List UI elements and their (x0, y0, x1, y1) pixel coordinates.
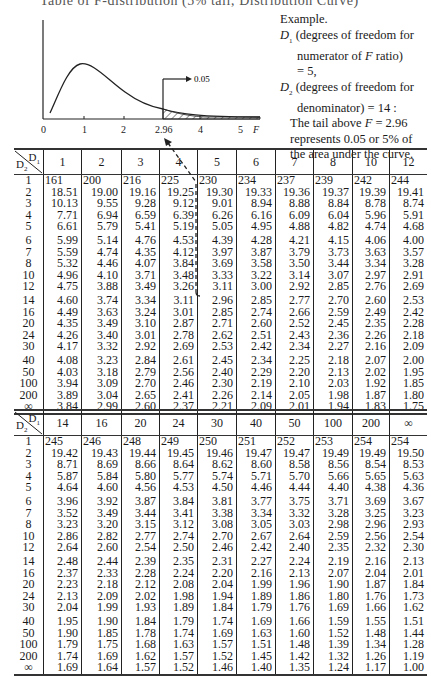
f-value-cell: 4.53 (160, 482, 198, 494)
f-value-cell: 2.92 (276, 281, 314, 293)
f-value-cell: 1.52 (160, 662, 198, 675)
f-value-cell: 4.56 (122, 482, 160, 494)
f-value-cell: 2.32 (353, 542, 390, 554)
corner-label: D1D2 (14, 410, 44, 436)
f-value-cell: 4.17 (44, 341, 82, 353)
f-value-cell: 1.69 (44, 662, 82, 675)
table-row: 124.753.883.493.263.113.002.922.852.762.… (14, 281, 427, 293)
table-row: 302.041.991.931.891.841.791.761.691.661.… (14, 602, 427, 614)
f-value-cell: 1.66 (353, 602, 390, 614)
f-value-cell: 2.53 (198, 341, 237, 353)
f-value-cell: 1.64 (82, 662, 122, 675)
f-value-cell: 1.79 (237, 602, 276, 614)
d2-value: ∞ (14, 662, 44, 675)
corner-label: D1D2 (14, 149, 44, 175)
f-value-cell: 3.32 (82, 341, 122, 353)
f-value-cell: 1.84 (198, 602, 237, 614)
f-value-cell: 1.46 (198, 662, 237, 675)
column-header: 40 (237, 410, 276, 436)
column-header: 16 (82, 410, 122, 436)
svg-text:5: 5 (238, 124, 243, 135)
example-d1: D1 (degrees of freedom for (280, 28, 430, 49)
svg-text:4: 4 (198, 124, 203, 135)
f-value-cell: 5.05 (198, 221, 237, 233)
f-value-cell: 3.26 (160, 281, 198, 293)
column-header: 3 (122, 149, 160, 175)
f-table-part-2: D1D214162024304050100200∞124524624824925… (14, 409, 427, 676)
column-header: 50 (276, 410, 314, 436)
f-value-cell: 4.82 (314, 221, 353, 233)
f-value-cell: 2.30 (390, 542, 428, 554)
example-title: Example. (280, 12, 430, 28)
f-value-cell: 3.11 (198, 281, 237, 293)
example-d2: D2 (degrees of freedom for (280, 80, 430, 101)
f-value-cell: 1.24 (314, 662, 353, 675)
f-value-cell: 4.40 (314, 482, 353, 494)
f-value-cell: 1.69 (314, 602, 353, 614)
column-header: 200 (353, 410, 390, 436)
f-value-cell: 1.40 (237, 662, 276, 675)
f-value-cell: 2.42 (237, 542, 276, 554)
d2-value: 30 (14, 602, 44, 614)
svg-text:1: 1 (82, 124, 87, 135)
tail-label: 0.05 (194, 74, 210, 84)
f-value-cell: 2.54 (122, 542, 160, 554)
column-header: 12 (390, 149, 428, 175)
f-value-cell: 5.79 (82, 221, 122, 233)
f-value-cell: 1.00 (390, 662, 428, 675)
f-value-cell: 2.64 (44, 542, 82, 554)
f-value-cell: 2.60 (82, 542, 122, 554)
density-curve (50, 64, 260, 117)
f-value-cell: 4.75 (44, 281, 82, 293)
svg-text:F: F (252, 124, 260, 135)
f-value-cell: 4.68 (390, 221, 428, 233)
d2-value: 5 (14, 482, 44, 494)
f-value-cell: 4.60 (82, 482, 122, 494)
f-value-cell: 4.95 (237, 221, 276, 233)
f-value-cell: 4.44 (276, 482, 314, 494)
svg-text:2.96: 2.96 (155, 124, 173, 135)
f-value-cell: 2.76 (353, 281, 390, 293)
d2-value: 30 (14, 341, 44, 353)
table-row: 54.644.604.564.534.504.464.444.404.384.3… (14, 482, 427, 494)
column-header: 6 (237, 149, 276, 175)
f-value-cell: 2.40 (276, 542, 314, 554)
d2-value: 5 (14, 221, 44, 233)
column-header: 1 (44, 149, 82, 175)
f-value-cell: 1.35 (276, 662, 314, 675)
f-value-cell: 5.19 (160, 221, 198, 233)
f-value-cell: 4.50 (198, 482, 237, 494)
f-table-part-1: D1D2123456781012116120021622523023423723… (14, 148, 427, 415)
f-value-cell: 2.16 (353, 341, 390, 353)
f-value-cell: 5.41 (122, 221, 160, 233)
f-value-cell: 2.27 (314, 341, 353, 353)
f-value-cell: 3.00 (237, 281, 276, 293)
svg-text:2: 2 (121, 124, 126, 135)
f-value-cell: 2.09 (390, 341, 428, 353)
f-value-cell: 1.57 (122, 662, 160, 675)
d2-value: 12 (14, 542, 44, 554)
column-header: 7 (276, 149, 314, 175)
f-value-cell: 2.50 (160, 542, 198, 554)
column-header: 8 (314, 149, 353, 175)
f-value-cell: 4.88 (276, 221, 314, 233)
f-value-cell: 2.42 (237, 341, 276, 353)
f-value-cell: 1.99 (82, 602, 122, 614)
column-header: 14 (44, 410, 82, 436)
f-value-cell: 4.46 (237, 482, 276, 494)
f-distribution-graph: 0.05 0 1 2 2.96 4 5 F (0, 0, 270, 145)
arrow-right-icon (186, 76, 192, 82)
svg-text:0: 0 (41, 124, 46, 135)
f-value-cell: 2.69 (390, 281, 428, 293)
f-value-cell: 4.38 (353, 482, 390, 494)
f-value-cell: 1.62 (390, 602, 428, 614)
f-value-cell: 2.04 (44, 602, 82, 614)
column-header: 10 (353, 149, 390, 175)
f-value-cell: 6.61 (44, 221, 82, 233)
f-value-cell: 4.64 (44, 482, 82, 494)
f-value-cell: 1.89 (160, 602, 198, 614)
column-header: 5 (198, 149, 237, 175)
table-row: 304.173.322.922.692.532.422.342.272.162.… (14, 341, 427, 353)
f-value-cell: 4.74 (353, 221, 390, 233)
column-header: 30 (198, 410, 237, 436)
